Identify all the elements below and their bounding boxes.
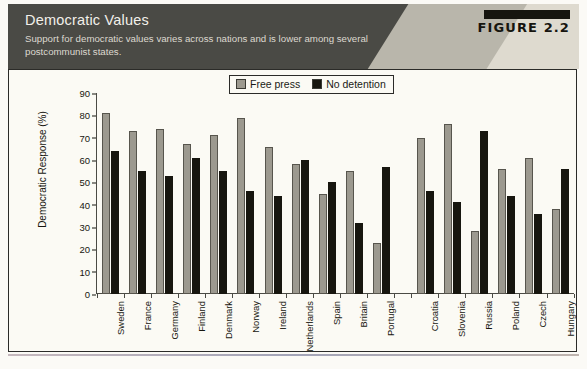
- bar-group: [368, 93, 395, 294]
- bar-group: [151, 93, 178, 294]
- bar-free-press: [498, 169, 506, 294]
- x-axis-label: Ireland: [259, 301, 286, 353]
- y-tick-label: 60: [68, 155, 90, 166]
- bar-free-press: [183, 144, 191, 294]
- bar-no-detention: [192, 158, 200, 294]
- x-axis-label: Denmark: [205, 301, 232, 353]
- y-tick-label: 70: [68, 132, 90, 143]
- bar-group: [287, 93, 314, 294]
- bar-groups: [97, 93, 574, 294]
- x-axis-label: Germany: [151, 301, 178, 353]
- bar-no-detention: [138, 171, 146, 294]
- bar-no-detention: [382, 167, 390, 294]
- bar-free-press: [346, 171, 354, 294]
- plot-area: Democratic Response (%) 0102030405060708…: [8, 69, 577, 352]
- bar-no-detention: [111, 151, 119, 294]
- x-tick: [439, 294, 466, 299]
- x-tick: [314, 294, 341, 299]
- x-axis-label: Slovenia: [439, 301, 466, 353]
- bar-free-press: [237, 118, 245, 294]
- bar-free-press: [525, 158, 533, 294]
- x-tick: [368, 294, 395, 299]
- bar-group: [124, 93, 151, 294]
- bar-group: [493, 93, 520, 294]
- bar-no-detention: [453, 202, 461, 294]
- figure-number-block: FIGURE 2.2: [478, 10, 570, 35]
- bar-group: [547, 93, 574, 294]
- x-axis-label: Netherlands: [287, 301, 314, 353]
- y-axis-ticks: 0102030405060708090: [70, 93, 96, 294]
- bar-free-press: [319, 194, 327, 295]
- bar-group: [232, 93, 259, 294]
- x-tick: [466, 294, 493, 299]
- bar-no-detention: [507, 196, 515, 294]
- bar-free-press: [102, 113, 110, 294]
- bar-free-press: [444, 124, 452, 294]
- x-tick: [547, 294, 574, 299]
- bar-group: [412, 93, 439, 294]
- x-tick: [151, 294, 178, 299]
- x-tick: [97, 294, 124, 299]
- source-note: [10, 360, 410, 368]
- x-axis-label: Norway: [232, 301, 259, 353]
- x-axis-label-text: Hungary: [565, 301, 576, 336]
- y-tick-label: 30: [68, 222, 90, 233]
- bar-no-detention: [534, 214, 542, 294]
- bar-free-press: [210, 135, 218, 294]
- x-axis-label: Poland: [493, 301, 520, 353]
- bar-group: [205, 93, 232, 294]
- y-tick-label: 0: [68, 289, 90, 300]
- footer-rule: [8, 354, 579, 356]
- x-tick: [493, 294, 520, 299]
- bar-free-press: [552, 209, 560, 294]
- bar-no-detention: [355, 223, 363, 294]
- x-tick: [412, 294, 439, 299]
- bar-free-press: [373, 243, 381, 294]
- bar-group: [259, 93, 286, 294]
- bar-no-detention: [274, 196, 282, 294]
- figure-header: Democratic Values Support for democratic…: [8, 4, 579, 69]
- figure-number-label: FIGURE 2.2: [478, 20, 570, 35]
- x-axis-label: Finland: [178, 301, 205, 353]
- group-separator: [395, 301, 412, 353]
- bar-group: [520, 93, 547, 294]
- y-tick-label: 40: [68, 199, 90, 210]
- bar-no-detention: [426, 191, 434, 294]
- y-tick-label: 50: [68, 177, 90, 188]
- bar-no-detention: [561, 169, 569, 294]
- bar-group: [314, 93, 341, 294]
- bar-free-press: [292, 164, 300, 294]
- y-tick-label: 20: [68, 244, 90, 255]
- x-axis-label: Sweden: [97, 301, 124, 353]
- bar-no-detention: [480, 131, 488, 294]
- x-tick: [520, 294, 547, 299]
- bar-no-detention: [219, 171, 227, 294]
- x-axis-label: France: [124, 301, 151, 353]
- x-tick: [259, 294, 286, 299]
- y-axis-title: Democratic Response (%): [37, 90, 48, 250]
- bar-free-press: [156, 129, 164, 294]
- bar-group: [97, 93, 124, 294]
- figure-title: Democratic Values: [25, 12, 149, 28]
- x-axis-ticks: [97, 294, 574, 299]
- x-tick: [232, 294, 259, 299]
- bar-group: [341, 93, 368, 294]
- bar-free-press: [417, 138, 425, 294]
- bar-no-detention: [165, 176, 173, 294]
- x-axis-label: Russia: [466, 301, 493, 353]
- x-tick: [178, 294, 205, 299]
- bar-free-press: [129, 131, 137, 294]
- group-separator: [395, 294, 412, 299]
- group-separator: [395, 93, 412, 294]
- x-axis-label: Hungary: [547, 301, 574, 353]
- x-axis-label: Spain: [314, 301, 341, 353]
- bar-group: [439, 93, 466, 294]
- bar-no-detention: [301, 160, 309, 294]
- x-tick: [287, 294, 314, 299]
- x-axis-label: Croatia: [412, 301, 439, 353]
- bar-free-press: [265, 147, 273, 294]
- bar-free-press: [471, 231, 479, 294]
- bar-group: [178, 93, 205, 294]
- y-tick-label: 90: [68, 88, 90, 99]
- x-tick: [341, 294, 368, 299]
